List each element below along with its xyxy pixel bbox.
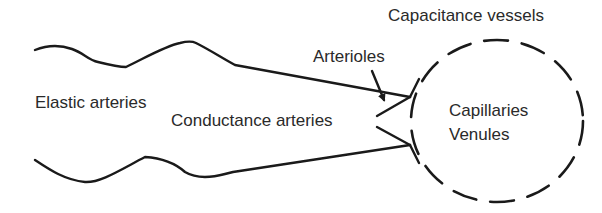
- label-capacitance-vessels: Capacitance vessels: [388, 6, 544, 25]
- label-venules: Venules: [449, 125, 510, 144]
- label-capillaries: Capillaries: [449, 101, 528, 120]
- arteriole-branch-lower: [377, 127, 410, 145]
- label-elastic-arteries: Elastic arteries: [35, 93, 146, 112]
- arterioles-arrow-icon: [372, 71, 384, 100]
- lower-vessel-wall: [35, 145, 410, 182]
- arteriole-branch-upper: [377, 97, 410, 116]
- vascular-diagram: Capacitance vessels Arterioles Elastic a…: [0, 0, 602, 213]
- capacitance-vessels-circle: [411, 40, 583, 202]
- label-conductance-arteries: Conductance arteries: [171, 111, 333, 130]
- label-arterioles: Arterioles: [313, 47, 385, 66]
